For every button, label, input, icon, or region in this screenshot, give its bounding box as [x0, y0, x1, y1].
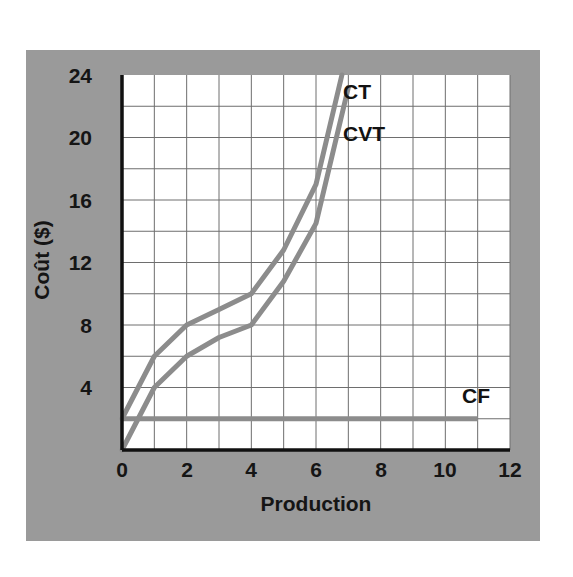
x-axis-label: Production [122, 492, 510, 516]
series-label-cvt: CVT [343, 122, 385, 146]
x-tick-10: 10 [425, 458, 465, 482]
x-tick-2: 2 [167, 458, 207, 482]
x-tick-8: 8 [361, 458, 401, 482]
series-label-cf: CF [462, 384, 490, 408]
x-tick-0: 0 [102, 458, 142, 482]
y-tick-24: 24 [46, 64, 92, 88]
x-tick-6: 6 [296, 458, 336, 482]
x-tick-4: 4 [231, 458, 271, 482]
y-tick-4: 4 [46, 376, 92, 400]
x-tick-12: 12 [490, 458, 530, 482]
y-tick-20: 20 [46, 126, 92, 150]
figure-container: 24 20 16 12 8 4 0 2 4 6 8 10 12 Coût ($)… [0, 0, 573, 577]
y-axis-label: Coût ($) [30, 200, 54, 320]
series-label-ct: CT [343, 80, 371, 104]
